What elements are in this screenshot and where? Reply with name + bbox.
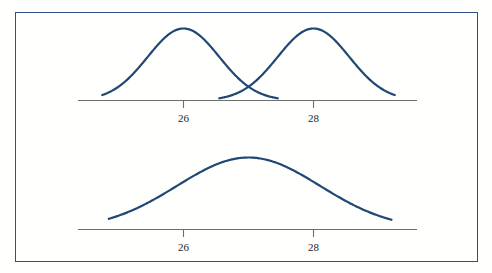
bottom-panel-tick-label-28: 28 [308,241,320,253]
top-panel: 26 28 [78,29,417,125]
curve-distribution-right [219,29,395,99]
curve-distribution-combined [109,158,392,220]
top-panel-tick-label-26: 26 [178,112,190,124]
figure-root: 26 28 26 28 [0,0,492,273]
bottom-panel: 26 28 [78,158,417,254]
bottom-panel-tick-label-26: 26 [178,241,190,253]
distribution-plots: 26 28 26 28 [0,0,492,273]
top-panel-tick-label-28: 28 [308,112,320,124]
curve-distribution-left [102,29,278,99]
